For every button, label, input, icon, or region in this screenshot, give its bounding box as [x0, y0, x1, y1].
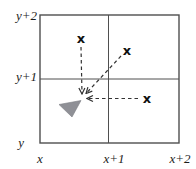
x-marker: x — [123, 43, 132, 58]
dashed-arrow — [86, 56, 121, 94]
x-axis-label-left: x — [36, 151, 43, 166]
y-axis-label-top: y+2 — [14, 8, 38, 23]
x-axis-label-mid: x+1 — [102, 151, 124, 166]
y-axis-label-mid: y+1 — [14, 69, 37, 84]
x-marker: x — [143, 91, 152, 106]
x-marker: x — [77, 31, 86, 46]
x-axis-label-right: x+2 — [168, 151, 191, 166]
dashed-arrow — [81, 47, 82, 94]
pointer-triangle — [59, 101, 81, 118]
y-axis-label-bottom: y — [16, 135, 24, 150]
marker-layer: xxx — [77, 31, 152, 106]
grid-diagram: y+2 y+1 y x x+1 x+2 xxx — [0, 0, 196, 169]
